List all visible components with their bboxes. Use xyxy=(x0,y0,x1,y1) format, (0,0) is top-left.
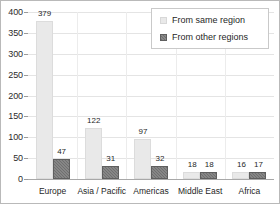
x-axis-category-label: Asia / Pacific xyxy=(77,187,126,196)
legend-label-same-region: From same region xyxy=(172,16,245,25)
bar xyxy=(102,166,119,179)
x-axis-category-label: Americas xyxy=(126,187,175,196)
legend: From same region From other regions xyxy=(151,8,269,49)
x-axis-category-label: Middle East xyxy=(176,187,225,196)
y-axis-tick-label: 0 xyxy=(18,175,23,184)
y-axis-tick-label: 50 xyxy=(13,154,23,163)
bar-value-label: 122 xyxy=(79,117,109,125)
y-axis: 050100150200250300350400 xyxy=(1,1,28,180)
bar-chart: 050100150200250300350400 379471223197321… xyxy=(0,0,280,204)
legend-item-same-region: From same region xyxy=(160,16,245,25)
category-separator xyxy=(126,12,127,179)
bar xyxy=(232,172,249,179)
bar-value-label: 18 xyxy=(194,161,224,169)
x-axis-category-label: Africa xyxy=(225,187,274,196)
gridline xyxy=(28,179,274,180)
bar-value-label: 379 xyxy=(30,10,60,18)
bar xyxy=(183,172,200,180)
bar xyxy=(200,172,217,180)
x-axis-category-labels: EuropeAsia / PacificAmericasMiddle EastA… xyxy=(28,187,274,201)
bar xyxy=(53,159,70,179)
legend-swatch-other-regions-icon xyxy=(160,34,167,41)
bar-value-label: 47 xyxy=(47,148,77,156)
bar xyxy=(85,128,102,179)
y-axis-tick-label: 150 xyxy=(8,112,23,121)
bar-value-label: 31 xyxy=(96,155,126,163)
legend-label-other-regions: From other regions xyxy=(172,33,248,42)
x-axis-category-label: Europe xyxy=(28,187,77,196)
y-axis-tick-label: 300 xyxy=(8,49,23,58)
y-axis-tick-label: 400 xyxy=(8,8,23,17)
legend-swatch-same-region-icon xyxy=(160,17,167,24)
bar-value-label: 97 xyxy=(128,128,158,136)
bar xyxy=(249,172,266,179)
y-axis-tick-label: 350 xyxy=(8,28,23,37)
bar-group: 12231 xyxy=(83,12,121,179)
bar-value-label: 17 xyxy=(243,161,273,169)
y-axis-tick-label: 100 xyxy=(8,133,23,142)
category-separator xyxy=(77,12,78,179)
legend-item-other-regions: From other regions xyxy=(160,33,248,42)
bar-value-label: 32 xyxy=(145,155,175,163)
y-axis-tick-label: 250 xyxy=(8,70,23,79)
bar-group: 37947 xyxy=(34,12,72,179)
y-axis-tick-label: 200 xyxy=(8,91,23,100)
bar xyxy=(151,166,168,179)
